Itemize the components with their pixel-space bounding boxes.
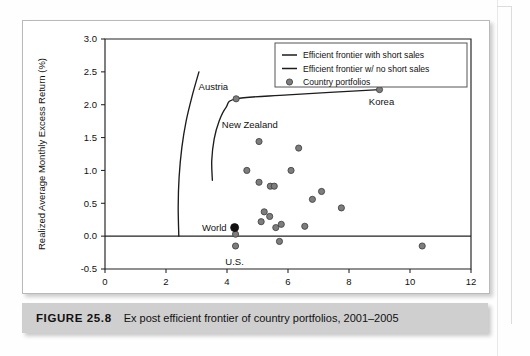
y-tick-label: 2.0 xyxy=(84,99,97,110)
data-point xyxy=(318,188,324,194)
x-tick-label: 8 xyxy=(346,276,351,287)
y-tick-label: 0.0 xyxy=(84,230,97,241)
y-tick-label: 3.0 xyxy=(84,33,97,44)
page-edge-line-inner xyxy=(511,6,512,324)
legend-label: Efficient frontier w/ no short sales xyxy=(303,64,429,74)
y-tick-label: 0.5 xyxy=(84,198,97,209)
annotation-world: World xyxy=(202,222,227,233)
frontier-curve xyxy=(212,90,380,181)
data-point xyxy=(276,238,282,244)
figure-panel: -0.50.00.51.01.52.02.53.0024681012Standa… xyxy=(22,20,490,294)
annotation-korea: Korea xyxy=(369,96,395,107)
frontier-curve xyxy=(178,72,199,236)
data-point xyxy=(273,225,279,231)
legend-label: Efficient frontier with short sales xyxy=(303,50,424,60)
x-tick-label: 0 xyxy=(102,276,107,287)
data-point xyxy=(296,145,302,151)
figure-number: FIGURE 25.8 xyxy=(36,312,112,324)
y-tick-label: 1.0 xyxy=(84,165,97,176)
x-tick-label: 10 xyxy=(405,276,416,287)
figure-caption-bar: FIGURE 25.8 Ex post efficient frontier o… xyxy=(22,303,488,333)
data-point xyxy=(288,167,294,173)
data-point xyxy=(338,205,344,211)
data-point xyxy=(267,213,273,219)
data-point xyxy=(419,243,425,249)
data-point xyxy=(256,138,262,144)
data-point xyxy=(244,167,250,173)
data-point xyxy=(261,209,267,215)
y-tick-label: -0.5 xyxy=(81,263,97,274)
y-tick-label: 2.5 xyxy=(84,66,97,77)
data-point xyxy=(302,223,308,229)
data-point xyxy=(309,196,315,202)
legend-label: Country portfolios xyxy=(303,77,370,87)
annotation-u-s: U.S. xyxy=(225,256,243,267)
x-tick-label: 4 xyxy=(224,276,229,287)
data-point xyxy=(233,96,239,102)
data-point xyxy=(256,179,262,185)
data-point xyxy=(258,219,264,225)
page-background: -0.50.00.51.01.52.02.53.0024681012Standa… xyxy=(0,0,530,356)
chart-plot-area: -0.50.00.51.01.52.02.53.0024681012Standa… xyxy=(23,21,489,293)
figure-caption-text: Ex post efficient frontier of country po… xyxy=(124,312,399,324)
x-tick-label: 6 xyxy=(285,276,290,287)
data-point xyxy=(232,231,238,237)
y-tick-label: 1.5 xyxy=(84,132,97,143)
x-tick-label: 12 xyxy=(466,276,477,287)
x-tick-label: 2 xyxy=(163,276,168,287)
data-point xyxy=(232,243,238,249)
page-edge-line-top xyxy=(497,6,512,7)
y-axis-title: Realized Average Monthly Excess Return (… xyxy=(36,58,47,250)
data-point-world xyxy=(231,224,239,232)
data-point xyxy=(271,183,277,189)
annotation-new-zealand: New Zealand xyxy=(222,119,278,130)
page-edge-line-outer xyxy=(497,0,498,356)
scatter-chart: -0.50.00.51.01.52.02.53.0024681012Standa… xyxy=(23,21,489,293)
legend-circle-marker xyxy=(286,79,292,85)
annotation-austria: Austria xyxy=(199,81,229,92)
data-point xyxy=(278,221,284,227)
